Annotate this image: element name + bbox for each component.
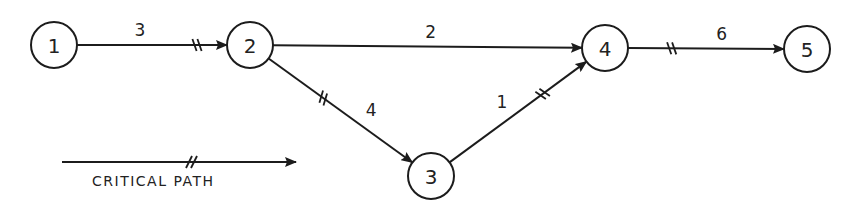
node-3: 3 (408, 153, 454, 199)
edge-4-5: 6 (628, 24, 784, 55)
diagram-canvas: 32416 12345 CRITICAL PATH (0, 0, 856, 211)
edge-weight-label: 6 (716, 24, 727, 44)
node-label: 5 (801, 38, 814, 62)
edge-2-4: 2 (273, 22, 582, 48)
network-diagram: 32416 12345 CRITICAL PATH (0, 0, 856, 211)
edge-arrow (628, 48, 784, 49)
node-label: 2 (244, 34, 257, 58)
edge-weight-label: 4 (366, 100, 377, 120)
node-2: 2 (227, 22, 273, 68)
legend-label: CRITICAL PATH (92, 173, 215, 189)
node-1: 1 (31, 22, 77, 68)
node-5: 5 (784, 26, 830, 72)
edge-arrow (273, 45, 582, 48)
node-label: 3 (425, 165, 438, 189)
node-label: 1 (48, 34, 61, 58)
edges-layer: 32416 (77, 20, 784, 163)
edge-weight-label: 2 (425, 22, 436, 42)
edge-weight-label: 3 (135, 20, 146, 40)
edge-1-2: 3 (77, 20, 227, 51)
legend: CRITICAL PATH (62, 156, 296, 189)
edge-weight-label: 1 (496, 92, 507, 112)
edge-3-4: 1 (450, 62, 587, 163)
edge-arrow (269, 58, 413, 162)
node-4: 4 (582, 25, 628, 71)
edge-2-3: 4 (269, 58, 413, 162)
edge-arrow (450, 62, 587, 163)
node-label: 4 (599, 37, 612, 61)
